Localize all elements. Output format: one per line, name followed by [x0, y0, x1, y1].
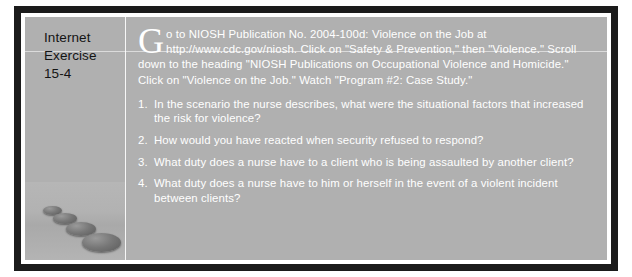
list-item: 3. What duty does a nurse have to a clie…	[138, 155, 595, 170]
stepping-stones-image	[25, 182, 125, 260]
drop-cap-letter: G	[138, 27, 166, 55]
question-number: 1.	[138, 97, 148, 112]
question-text: In the scenario the nurse describes, wha…	[154, 98, 584, 125]
question-number: 2.	[138, 133, 148, 148]
exercise-title-line2: Exercise	[44, 47, 122, 65]
exercise-number: 15-4	[44, 65, 122, 83]
question-text: How would you have reacted when security…	[154, 134, 484, 146]
intro-paragraph: Go to NIOSH Publication No. 2004-100d: V…	[138, 27, 595, 88]
stone-shape	[82, 233, 121, 252]
list-item: 2. How would you have reacted when secur…	[138, 133, 595, 148]
internet-exercise-box: Internet Exercise 15-4 Go to NIOSH Publi…	[14, 6, 618, 271]
intro-text: o to NIOSH Publication No. 2004-100d: Vi…	[138, 28, 576, 86]
exercise-title-line1: Internet	[44, 29, 122, 47]
question-number: 3.	[138, 155, 148, 170]
white-inner-frame: Internet Exercise 15-4 Go to NIOSH Publi…	[21, 13, 611, 264]
exercise-title: Internet Exercise 15-4	[44, 29, 122, 83]
question-list: 1. In the scenario the nurse describes, …	[138, 97, 595, 206]
left-column: Internet Exercise 15-4	[25, 17, 125, 260]
right-column: Go to NIOSH Publication No. 2004-100d: V…	[126, 17, 607, 260]
list-item: 1. In the scenario the nurse describes, …	[138, 97, 595, 126]
list-item: 4. What duty does a nurse have to him or…	[138, 176, 595, 205]
question-text: What duty does a nurse have to a client …	[154, 156, 574, 168]
exercise-panel: Internet Exercise 15-4 Go to NIOSH Publi…	[25, 17, 607, 260]
question-number: 4.	[138, 176, 148, 191]
question-text: What duty does a nurse have to him or he…	[154, 177, 558, 204]
